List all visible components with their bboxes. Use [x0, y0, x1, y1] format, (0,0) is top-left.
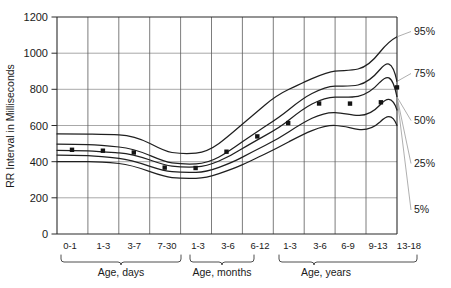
y-tick-label-1200: 1200 [24, 11, 48, 23]
x-tick-labels: 0-1 1-3 3-7 7-30 1-3 3-6 6-12 1-3 3-6 6-… [63, 240, 421, 251]
percentile-label-5: 5% [414, 203, 429, 215]
x-tick-label-6: 6-12 [250, 240, 269, 251]
bracket-age-years [279, 255, 417, 265]
group-labels: Age, days Age, months Age, years [98, 266, 351, 278]
group-label-age-years: Age, years [301, 266, 351, 278]
y-tick-labels: 1200 1000 800 600 400 200 0 [24, 11, 48, 240]
y-tickmarks [52, 17, 58, 234]
chart-figure: RR Interval in Milliseconds [0, 0, 451, 288]
x-tick-label-4: 1-3 [191, 240, 205, 251]
curve-5-percentile [57, 117, 397, 179]
y-axis-title: RR Interval in Milliseconds [4, 64, 16, 188]
percentile-label-95: 95% [414, 25, 435, 37]
bracket-age-days [61, 255, 181, 265]
x-tick-label-0: 0-1 [63, 240, 77, 251]
y-tick-label-600: 600 [30, 120, 48, 132]
percentile-label-75: 75% [414, 67, 435, 79]
x-tick-label-1: 1-3 [97, 240, 111, 251]
rr-interval-percentile-chart: RR Interval in Milliseconds [0, 0, 451, 288]
x-tick-label-2: 3-7 [127, 240, 141, 251]
group-label-age-months: Age, months [193, 266, 252, 278]
y-tick-label-400: 400 [30, 156, 48, 168]
y-tick-label-1000: 1000 [24, 47, 48, 59]
percentile-leader-lines [397, 32, 411, 211]
horizontal-gridlines [57, 53, 397, 198]
percentile-labels: 95% 75% 50% 25% 5% [414, 25, 435, 215]
x-tick-label-10: 9-13 [368, 240, 387, 251]
y-tick-label-800: 800 [30, 83, 48, 95]
percentile-label-25: 25% [414, 157, 435, 169]
x-tick-label-9: 6-9 [341, 240, 355, 251]
x-tick-label-5: 3-6 [221, 240, 235, 251]
x-tick-label-8: 3-6 [313, 240, 327, 251]
percentile-label-50: 50% [414, 114, 435, 126]
x-tick-label-11: 13-18 [397, 240, 421, 251]
y-tick-label-200: 200 [30, 192, 48, 204]
x-tick-label-7: 1-3 [283, 240, 297, 251]
group-brackets [61, 255, 417, 265]
group-label-age-days: Age, days [98, 266, 145, 278]
bracket-age-months [190, 255, 254, 265]
curve-95-percentile [57, 37, 397, 154]
x-tick-label-3: 7-30 [157, 240, 176, 251]
y-tick-label-0: 0 [42, 228, 48, 240]
